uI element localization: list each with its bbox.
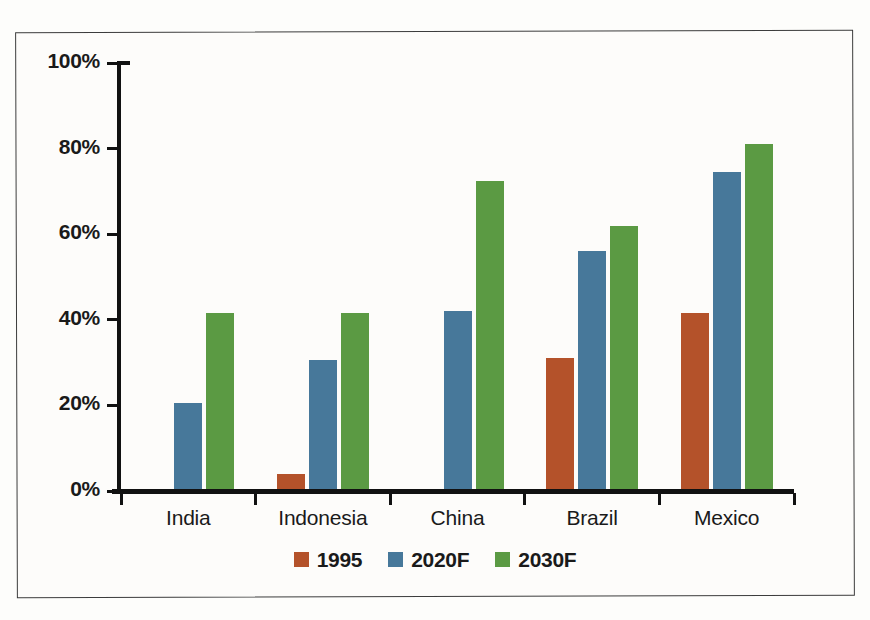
- bar: [206, 313, 234, 493]
- bar: [745, 144, 773, 493]
- bar: [476, 181, 504, 493]
- chart-screenshot: 0%20%40%60%80%100% IndiaIndonesiaChinaBr…: [0, 0, 870, 620]
- bar: [341, 313, 369, 493]
- x-axis-line: [112, 489, 794, 494]
- legend-label: 2020F: [411, 549, 469, 570]
- bar: [681, 313, 709, 493]
- legend-swatch-icon: [388, 552, 403, 567]
- x-axis-tick: [793, 493, 796, 505]
- bar: [610, 226, 638, 494]
- bar: [546, 358, 574, 493]
- legend-item: 2020F: [388, 549, 469, 570]
- legend-swatch-icon: [495, 552, 510, 567]
- chart-legend: 19952020F2030F: [0, 549, 870, 570]
- chart-plot-area: 0%20%40%60%80%100% IndiaIndonesiaChinaBr…: [0, 0, 870, 620]
- bar: [174, 403, 202, 493]
- legend-item: 2030F: [495, 549, 576, 570]
- legend-item: 1995: [294, 549, 363, 570]
- x-axis-tick: [120, 493, 123, 505]
- bar: [309, 360, 337, 493]
- legend-label: 1995: [317, 549, 363, 570]
- x-axis-category-label: Mexico: [642, 506, 812, 530]
- x-axis-tick: [389, 493, 392, 505]
- legend-swatch-icon: [294, 552, 309, 567]
- bar: [713, 172, 741, 493]
- x-axis-tick: [254, 493, 257, 505]
- x-axis-tick: [523, 493, 526, 505]
- x-axis-tick: [658, 493, 661, 505]
- legend-label: 2030F: [518, 549, 576, 570]
- bar: [444, 311, 472, 493]
- bar: [578, 251, 606, 493]
